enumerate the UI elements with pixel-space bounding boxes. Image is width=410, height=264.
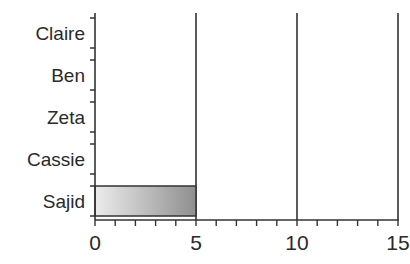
category-label: Zeta [47,107,85,128]
gridlines [196,13,398,220]
category-label: Ben [51,65,85,86]
category-label: Sajid [43,191,85,212]
category-label: Claire [35,23,85,44]
bar-sajid [95,186,196,216]
x-tick-label: 0 [89,231,101,254]
x-tick-label: 5 [190,231,202,254]
x-tick-labels: 051015 [89,231,410,254]
x-tick-label: 15 [386,231,409,254]
bar-chart: ClaireBenZetaCassieSajid 051015 [0,0,410,264]
category-labels: ClaireBenZetaCassieSajid [27,23,85,212]
bars [95,186,196,216]
category-label: Cassie [27,149,85,170]
x-tick-label: 10 [285,231,308,254]
